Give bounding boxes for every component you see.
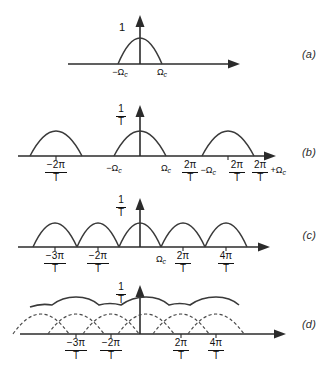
panel-a: 1 −Ωc Ωc — [0, 0, 330, 95]
tick-neg-3pi-over-T-c: −3π T — [37, 251, 73, 274]
spectrum-hump-right — [202, 131, 254, 156]
tick-2pi-over-T-plus-omega-c-b: 2π T +Ωc — [252, 160, 310, 183]
tick-2pi-over-T-d: 2π T — [168, 338, 194, 361]
tick-omega-c-b: Ωc — [150, 164, 182, 174]
aliased-replicas-dashed — [13, 314, 244, 334]
panel-letter-c: (c) — [303, 229, 316, 241]
tick-4pi-over-T-c: 4π T — [213, 251, 239, 274]
tick-4pi-over-T-d: 4π T — [203, 338, 229, 361]
axis-arrow-right — [258, 243, 270, 252]
aliased-envelope — [30, 297, 239, 307]
tick-2pi-over-T-b: 2π T — [224, 160, 250, 183]
panel-a-plot — [0, 0, 330, 95]
figure-container: 1 −Ωc Ωc (a) — [0, 0, 330, 367]
panel-letter-b: (b) — [302, 146, 316, 158]
spectrum-hump-left — [30, 131, 82, 156]
tick-neg-2pi-over-T-b: −2π T — [38, 160, 74, 183]
axis-arrow-right — [274, 330, 286, 339]
panel-letter-d: (d) — [302, 318, 316, 330]
spectrum-hump-dashed-4 — [153, 314, 209, 334]
spectrum-hump-dashed-0 — [13, 314, 69, 334]
spectrum-hump-4 — [161, 223, 205, 247]
spectrum-hump-2 — [77, 223, 119, 247]
axis-arrow-up — [136, 198, 145, 210]
axis-arrow-up — [136, 15, 145, 27]
spectrum-hump-5 — [205, 223, 247, 247]
tick-omega-c-a: Ωc — [146, 68, 178, 78]
panel-letter-a: (a) — [302, 48, 316, 60]
amplitude-label-c: 1 T — [116, 195, 126, 218]
tick-neg-2pi-over-T-c: −2π T — [80, 251, 116, 274]
axis-arrow-up — [136, 105, 145, 117]
axis-arrow-up — [136, 285, 145, 297]
panel-b: 1 T −2π T −Ωc Ωc 2π T −Ωc 2π T — [0, 90, 330, 188]
axis-arrow-right — [228, 60, 240, 69]
spectrum-hump-1 — [33, 223, 77, 247]
spectrum-hump-dashed-2 — [83, 314, 139, 334]
tick-neg-omega-c-a: −Ωc — [102, 68, 138, 78]
tick-neg-2pi-over-T-d: −2π T — [93, 338, 129, 361]
spectrum-hump-dashed-3 — [118, 314, 174, 334]
panel-d: 1 T −3π T −2π T 2π T 4π T — [0, 272, 330, 367]
panel-d-plot — [0, 272, 330, 367]
spectrum-hump-dashed-1 — [48, 314, 104, 334]
panel-c: 1 T −3π T −2π T Ωc 2π T — [0, 185, 330, 277]
tick-neg-omega-c-b: −Ωc — [96, 164, 132, 174]
amplitude-label-d: 1 T — [116, 282, 126, 305]
tick-neg-3pi-over-T-d: −3π T — [58, 338, 94, 361]
spectrum-hump-dashed-5 — [188, 314, 244, 334]
tick-2pi-over-T-c: 2π T — [170, 251, 196, 274]
amplitude-label-b: 1 T — [116, 104, 126, 127]
amplitude-label-a: 1 — [119, 22, 125, 33]
